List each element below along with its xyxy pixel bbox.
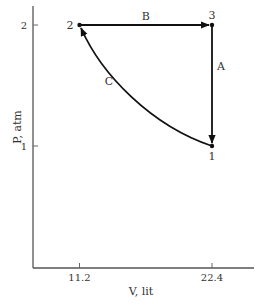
- state-point-3: [210, 23, 214, 27]
- process-label-b: B: [142, 10, 150, 23]
- state-label-3: 3: [209, 9, 216, 22]
- pv-diagram: 11.222.412 V, lit P, atm BAC 123: [0, 0, 264, 307]
- process-label-a: A: [216, 60, 226, 73]
- state-point-1: [210, 144, 214, 148]
- x-axis-title: V, lit: [128, 285, 154, 298]
- state-label-2: 2: [67, 19, 74, 32]
- x-tick-label: 22.4: [201, 272, 223, 283]
- state-label-1: 1: [209, 150, 216, 163]
- y-axis-title: P, atm: [11, 110, 24, 144]
- x-tick-label: 11.2: [68, 272, 90, 283]
- process-label-c: C: [105, 75, 113, 88]
- process-c-curve: [81, 28, 212, 146]
- y-tick-label: 2: [21, 20, 27, 31]
- state-point-2: [77, 23, 81, 27]
